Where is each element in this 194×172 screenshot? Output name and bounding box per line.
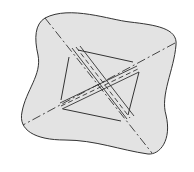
diagram-canvas xyxy=(0,0,194,172)
outer-blob xyxy=(21,13,176,154)
